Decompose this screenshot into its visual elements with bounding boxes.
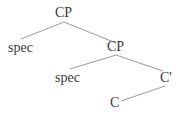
edge-cp-spec — [70, 55, 116, 69]
node-inner-spec: spec — [55, 71, 80, 85]
edge-root-spec — [21, 22, 64, 39]
node-root-cp: CP — [55, 6, 72, 20]
node-root-spec: spec — [8, 41, 33, 55]
node-inner-cp: CP — [107, 40, 124, 54]
node-c-bar: C' — [160, 71, 172, 85]
edge-cbar-c — [121, 86, 165, 101]
edge-cp-cbar — [116, 55, 163, 71]
node-c-head: C — [110, 96, 119, 110]
tree-edges — [0, 0, 176, 117]
